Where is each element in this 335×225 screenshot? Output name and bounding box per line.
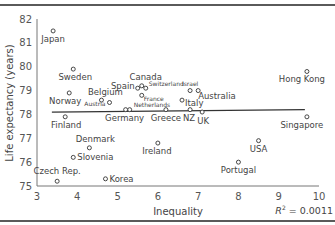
- point-label: NZ: [183, 113, 195, 123]
- point-label: Sweden: [58, 72, 92, 82]
- data-point: Slovenia: [71, 152, 113, 162]
- y-tick-label: 81: [19, 37, 32, 48]
- scatter-chart: 7576777879808182 345678910 JapanSwedenNo…: [0, 0, 335, 225]
- x-tick-label: 5: [114, 191, 120, 202]
- x-tick-label: 10: [313, 191, 326, 202]
- point-label: Finland: [51, 120, 81, 130]
- data-point: USA: [250, 139, 268, 154]
- data-point: Germany: [105, 108, 144, 123]
- point-marker-icon: [55, 179, 59, 183]
- point-label: UK: [197, 116, 209, 126]
- y-tick-label: 80: [19, 61, 32, 72]
- point-label: USA: [250, 144, 268, 154]
- point-marker-icon: [188, 89, 192, 93]
- data-point: Italy: [180, 98, 203, 108]
- x-tick-label: 3: [34, 191, 40, 202]
- y-tick-label: 78: [19, 109, 32, 120]
- x-tick-label: 7: [195, 191, 201, 202]
- point-marker-icon: [188, 108, 192, 112]
- y-tick-label: 77: [19, 133, 32, 144]
- point-marker-icon: [108, 101, 112, 105]
- point-label: Japan: [40, 34, 65, 44]
- data-point: Singapore: [280, 115, 323, 130]
- data-point: Switzerland: [144, 80, 184, 90]
- point-label: Germany: [105, 113, 144, 123]
- point-marker-icon: [103, 177, 107, 181]
- point-marker-icon: [305, 69, 309, 73]
- point-marker-icon: [71, 67, 75, 71]
- point-label: Netherlands: [134, 101, 171, 108]
- data-point: Norway: [49, 91, 81, 106]
- point-marker-icon: [257, 139, 261, 143]
- data-point: Ireland: [142, 141, 171, 156]
- data-point: Hong Kong: [279, 69, 325, 84]
- data-point: Denmark: [76, 134, 115, 150]
- data-point: Portugal: [221, 160, 256, 175]
- data-point: Sweden: [58, 67, 92, 82]
- point-marker-icon: [236, 160, 240, 164]
- point-marker-icon: [164, 108, 168, 112]
- point-label: Italy: [185, 98, 203, 108]
- point-label: Korea: [109, 174, 133, 184]
- point-marker-icon: [51, 29, 55, 33]
- x-tick-label: 4: [74, 191, 80, 202]
- y-tick-labels: 7576777879808182: [19, 14, 32, 192]
- x-axis-label: Inequality: [153, 206, 203, 217]
- data-points: JapanSwedenNorwayFinlandBelgiumAustriaDe…: [34, 29, 326, 184]
- point-marker-icon: [144, 86, 148, 90]
- point-marker-icon: [128, 108, 132, 112]
- data-point: Korea: [103, 174, 133, 184]
- point-marker-icon: [140, 84, 144, 88]
- point-marker-icon: [71, 155, 75, 159]
- r-squared-annotation: R2 = 0.0011: [275, 204, 333, 216]
- point-label: Singapore: [280, 120, 323, 130]
- x-tick-label: 6: [155, 191, 161, 202]
- y-tick-label: 82: [19, 14, 32, 25]
- point-label: Greece: [151, 113, 181, 123]
- y-tick-label: 76: [19, 157, 32, 168]
- point-marker-icon: [67, 91, 71, 95]
- data-point: NZ: [183, 108, 195, 123]
- point-marker-icon: [156, 141, 160, 145]
- data-point: Czech Rep.: [34, 166, 81, 183]
- point-marker-icon: [305, 115, 309, 119]
- point-marker-icon: [200, 110, 204, 114]
- y-tick-label: 75: [19, 181, 32, 192]
- point-label: Australia: [198, 91, 236, 101]
- point-label: Hong Kong: [279, 74, 325, 84]
- r2-value: = 0.0011: [286, 205, 333, 216]
- point-label: Ireland: [142, 146, 171, 156]
- data-point: Greece: [151, 108, 181, 123]
- x-tick-label: 9: [276, 191, 282, 202]
- point-marker-icon: [124, 108, 128, 112]
- point-marker-icon: [63, 115, 67, 119]
- r2-symbol: R: [275, 205, 282, 216]
- y-axis-label: Life expectancy (years): [4, 44, 15, 161]
- point-label: Switzerland: [149, 80, 184, 87]
- point-marker-icon: [136, 86, 140, 90]
- point-label: Czech Rep.: [34, 166, 81, 176]
- data-point: Spain: [111, 81, 140, 91]
- point-label: Portugal: [221, 165, 256, 175]
- point-marker-icon: [87, 146, 91, 150]
- point-label: Norway: [49, 96, 81, 106]
- point-label: Israel: [182, 80, 199, 87]
- point-label: Slovenia: [77, 152, 113, 162]
- y-tick-label: 79: [19, 85, 32, 96]
- data-point: Finland: [51, 115, 81, 130]
- data-point: Austria: [84, 100, 111, 107]
- x-tick-label: 8: [235, 191, 241, 202]
- x-tick-labels: 345678910: [34, 191, 326, 202]
- point-label: Denmark: [76, 134, 115, 144]
- point-label: Spain: [111, 81, 135, 91]
- data-point: Japan: [40, 29, 65, 44]
- point-marker-icon: [180, 98, 184, 102]
- data-point: UK: [197, 110, 209, 126]
- point-label: Austria: [84, 100, 106, 107]
